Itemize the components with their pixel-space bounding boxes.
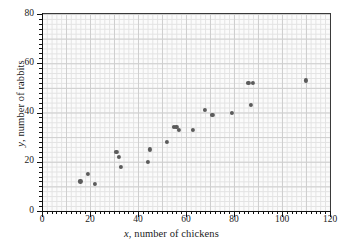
x-tick-minor (61, 212, 62, 215)
y-tick-minor (39, 98, 42, 99)
y-tick-minor (39, 44, 42, 45)
y-tick-minor (39, 117, 42, 118)
y-tick-minor (39, 172, 42, 173)
y-tick-minor (39, 108, 42, 109)
y-tick-major (37, 63, 42, 64)
y-axis-line (42, 13, 43, 212)
x-tick-minor (301, 212, 302, 215)
y-tick-minor (39, 24, 42, 25)
y-tick-minor (39, 83, 42, 84)
y-tick-minor (39, 201, 42, 202)
x-tick-minor (306, 212, 307, 215)
x-tick-label: 100 (267, 214, 297, 224)
x-tick-label: 20 (75, 214, 105, 224)
y-tick-minor (39, 147, 42, 148)
x-axis-title-text: , number of chickens (129, 228, 219, 239)
y-tick-minor (39, 53, 42, 54)
y-tick-minor (39, 78, 42, 79)
y-tick-minor (39, 167, 42, 168)
y-tick-minor (39, 132, 42, 133)
x-tick-label: 60 (171, 214, 201, 224)
y-tick-minor (39, 191, 42, 192)
plot-border-top (42, 13, 331, 14)
x-tick-minor (114, 212, 115, 215)
y-axis-title-symbol: y (15, 142, 26, 147)
y-tick-minor (39, 39, 42, 40)
y-tick-minor (39, 73, 42, 74)
x-tick-minor (215, 212, 216, 215)
x-tick-minor (258, 212, 259, 215)
y-tick-minor (39, 122, 42, 123)
y-tick-major (37, 113, 42, 114)
y-tick-minor (39, 29, 42, 30)
y-tick-minor (39, 142, 42, 143)
x-tick-label: 40 (123, 214, 153, 224)
plot-border-right (330, 13, 331, 211)
x-tick-minor (253, 212, 254, 215)
y-tick-minor (39, 103, 42, 104)
x-tick-minor (162, 212, 163, 215)
y-tick-major (37, 211, 42, 212)
y-tick-minor (39, 206, 42, 207)
x-tick-minor (71, 212, 72, 215)
y-tick-minor (39, 177, 42, 178)
x-tick-label: 0 (27, 214, 57, 224)
y-axis-title-text: , number of rabbits (15, 60, 26, 142)
y-tick-minor (39, 19, 42, 20)
y-tick-major (37, 14, 42, 15)
y-tick-minor (39, 186, 42, 187)
y-tick-minor (39, 88, 42, 89)
x-tick-minor (311, 212, 312, 215)
y-tick-label: 0 (12, 205, 34, 215)
y-tick-minor (39, 181, 42, 182)
y-tick-minor (39, 58, 42, 59)
y-tick-minor (39, 157, 42, 158)
plot-area (42, 14, 330, 211)
x-tick-minor (109, 212, 110, 215)
x-tick-label: 120 (315, 214, 343, 224)
x-tick-minor (263, 212, 264, 215)
y-tick-minor (39, 34, 42, 35)
x-axis-title: x, number of chickens (0, 228, 343, 239)
y-tick-minor (39, 137, 42, 138)
y-tick-minor (39, 196, 42, 197)
y-tick-minor (39, 93, 42, 94)
y-tick-minor (39, 152, 42, 153)
major-gridlines (42, 14, 330, 211)
y-tick-major (37, 162, 42, 163)
x-tick-minor (66, 212, 67, 215)
x-tick-minor (210, 212, 211, 215)
x-tick-minor (167, 212, 168, 215)
y-tick-minor (39, 127, 42, 128)
x-tick-label: 80 (219, 214, 249, 224)
x-tick-minor (119, 212, 120, 215)
y-tick-minor (39, 48, 42, 49)
x-tick-minor (157, 212, 158, 215)
y-tick-minor (39, 68, 42, 69)
x-tick-minor (205, 212, 206, 215)
y-axis-title: y, number of rabbits (15, 4, 26, 204)
scatter-chart: 020406080100120 020406080 x, number of c… (0, 0, 343, 246)
